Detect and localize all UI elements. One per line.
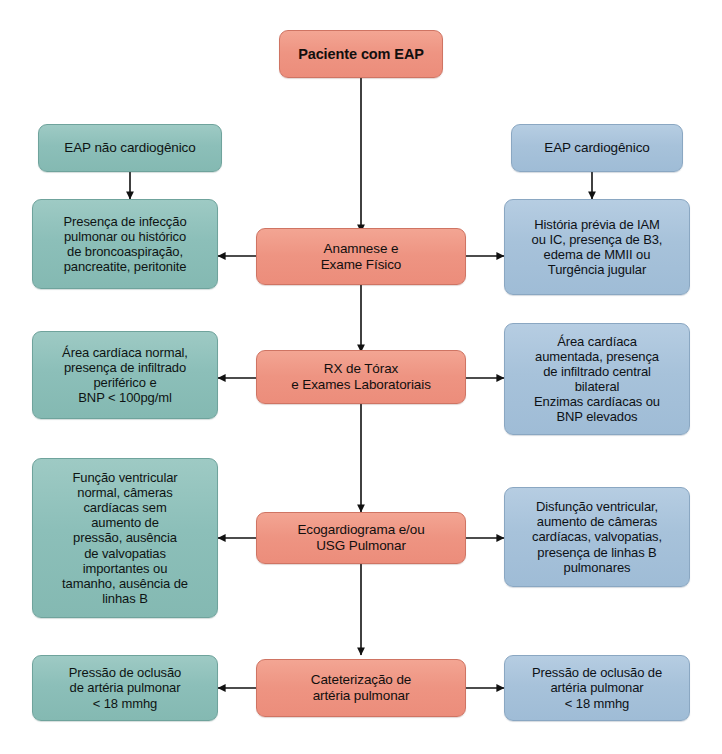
node-step4-left[interactable]: Pressão de oclusão de artéria pulmonar <… — [32, 655, 218, 721]
node-step2-center[interactable]: RX de Tórax e Exames Laboratoriais — [256, 350, 466, 404]
node-step1-left[interactable]: Presença de infecção pulmonar ou históri… — [32, 199, 218, 289]
node-step2-right[interactable]: Área cardíaca aumentada, presença de inf… — [504, 323, 690, 435]
node-root[interactable]: Paciente com EAP — [279, 30, 443, 78]
node-step1-center[interactable]: Anamnese e Exame Físico — [256, 228, 466, 285]
flowchart-canvas: Paciente com EAP EAP não cardiogênico EA… — [0, 0, 722, 754]
node-step4-center[interactable]: Cateterização de artéria pulmonar — [256, 659, 466, 717]
node-left-header[interactable]: EAP não cardiogênico — [38, 124, 222, 172]
node-step2-left[interactable]: Área cardíaca normal, presença de infilt… — [32, 331, 218, 419]
node-step4-right[interactable]: Pressão de oclusão de artéria pulmonar <… — [504, 655, 690, 721]
node-step3-left[interactable]: Função ventricular normal, câmeras cardí… — [32, 458, 218, 618]
node-step1-right[interactable]: História prévia de IAM ou IC, presença d… — [504, 199, 690, 295]
node-step3-right[interactable]: Disfunção ventricular, aumento de câmera… — [504, 487, 690, 587]
node-step3-center[interactable]: Ecogardiograma e/ou USG Pulmonar — [256, 512, 466, 564]
node-right-header[interactable]: EAP cardiogênico — [511, 124, 683, 172]
